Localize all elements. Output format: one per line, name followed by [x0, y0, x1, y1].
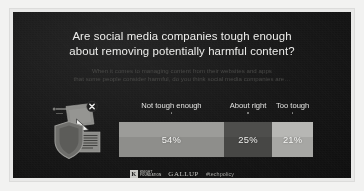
bar-label-about-right: About right [224, 101, 273, 110]
screenshot-root: Are social media companies tough enough … [0, 0, 364, 191]
bar-value-not-tough-enough: 54% [162, 134, 181, 145]
stacked-bar-chart: 54% 25% 21% [119, 122, 313, 157]
bar-label-too-tough: Too tough [272, 101, 313, 110]
hashtag-label: #techpolicy [206, 171, 234, 177]
knight-word-line-2: Foundation [140, 174, 161, 178]
illustration-svg [51, 98, 103, 160]
infographic-card: Are social media companies tough enough … [13, 12, 351, 178]
bar-segment-about-right: 25% [224, 122, 273, 157]
headline-line-1: Are social media companies tough enough [72, 30, 291, 42]
tick-too-tough [292, 112, 294, 114]
knight-foundation-logo: K Knight Foundation [130, 170, 161, 178]
bar-legend: Not tough enough About right Too tough [119, 101, 313, 119]
tick-not-tough-enough [171, 112, 173, 114]
knight-mark-icon: K [130, 170, 138, 178]
subtitle-line-1: When it comes to managing content from t… [92, 67, 272, 74]
bar-segment-not-tough-enough: 54% [119, 122, 224, 157]
gallup-logo: GALLUP [168, 170, 199, 178]
close-x-icon [87, 101, 97, 111]
bar-value-too-tough: 21% [283, 134, 302, 145]
footer-logos: K Knight Foundation GALLUP #techpolicy [13, 170, 351, 178]
bar-label-not-tough-enough: Not tough enough [119, 101, 224, 110]
bar-segment-too-tough: 21% [272, 122, 313, 157]
knight-wordmark: Knight Foundation [140, 171, 161, 178]
headline-line-2: about removing potentially harmful conte… [39, 44, 325, 59]
page-title: Are social media companies tough enough … [13, 29, 351, 58]
tick-about-right [247, 112, 249, 114]
shield-icon [55, 122, 83, 159]
subtitle-line-2: that some people consider harmful, do yo… [47, 75, 317, 83]
connector-line-icon [53, 108, 67, 114]
bar-value-about-right: 25% [238, 134, 257, 145]
subtitle: When it comes to managing content from t… [13, 67, 351, 84]
content-moderation-illustration [51, 98, 103, 160]
